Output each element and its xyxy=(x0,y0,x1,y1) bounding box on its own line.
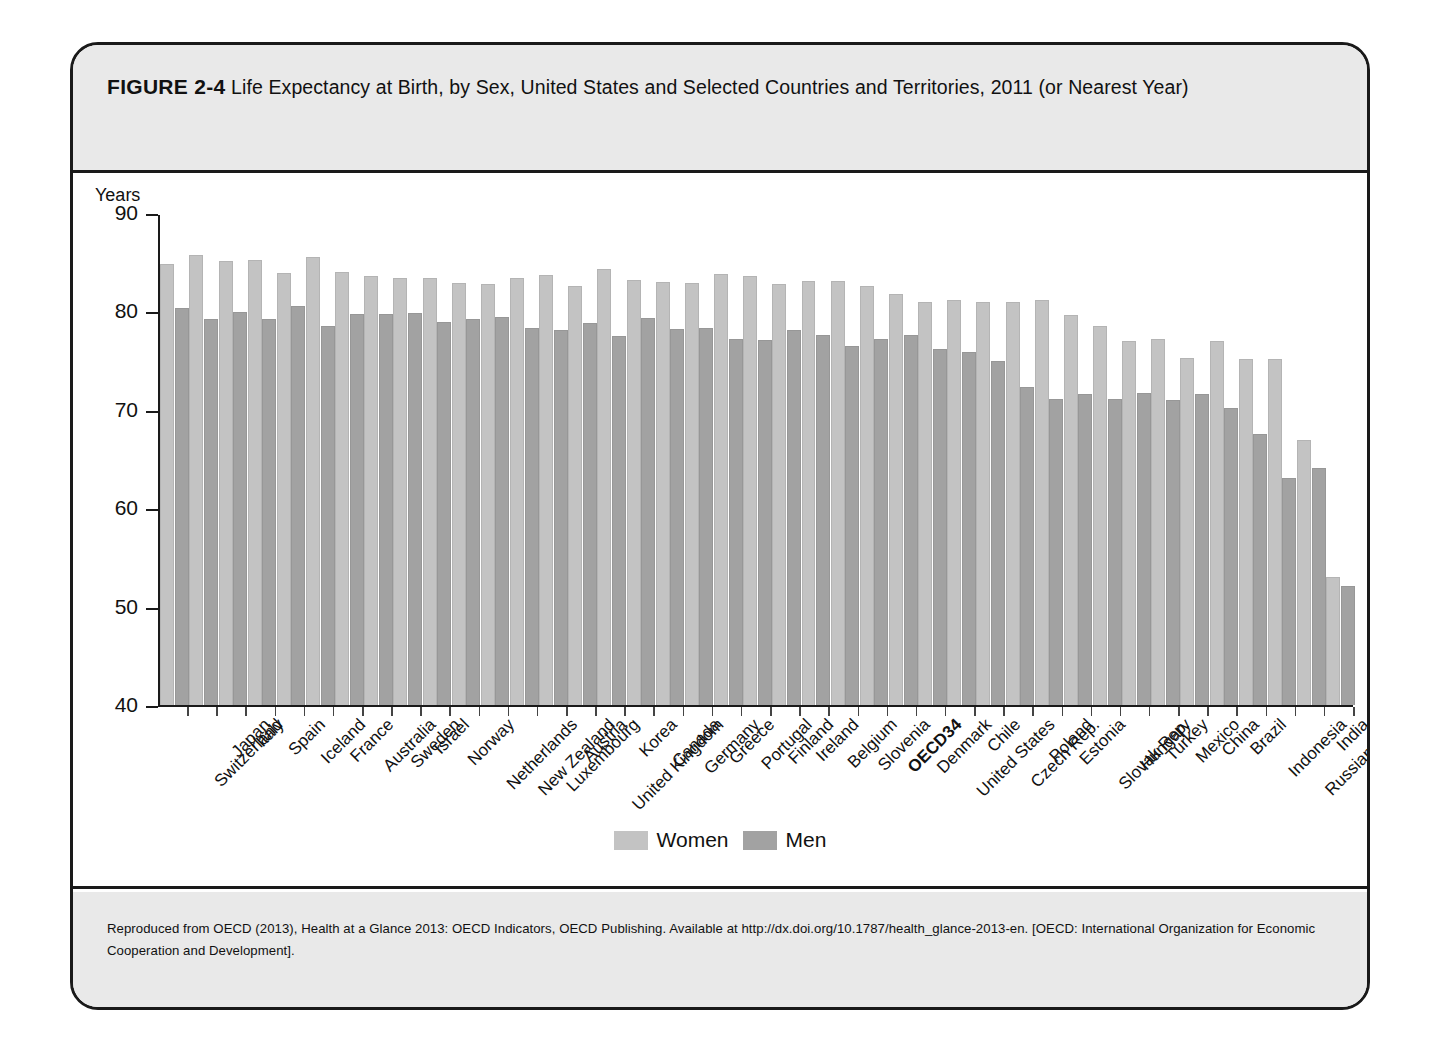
bar-men xyxy=(758,340,772,705)
bar-group xyxy=(597,215,626,705)
y-tick-70: 70 xyxy=(146,411,158,413)
bar-men xyxy=(641,318,655,705)
bar-group xyxy=(772,215,801,705)
y-tick-label-40: 40 xyxy=(92,693,138,717)
bar-women xyxy=(160,264,174,705)
bar-women xyxy=(452,283,466,705)
bar-series-container xyxy=(160,215,1353,705)
bar-women xyxy=(335,272,349,705)
bar-men xyxy=(1166,400,1180,705)
bar-women xyxy=(1239,359,1253,705)
y-tick-40: 40 xyxy=(146,706,158,708)
figure-label: FIGURE 2-4 xyxy=(107,75,226,98)
legend-label-men: Men xyxy=(786,828,827,852)
bar-men xyxy=(1108,399,1122,705)
y-tick-label-80: 80 xyxy=(92,299,138,323)
bar-women xyxy=(627,280,641,705)
bar-women xyxy=(1210,341,1224,705)
bar-group xyxy=(218,215,247,705)
bar-men xyxy=(1253,434,1267,705)
bar-men xyxy=(1078,394,1092,705)
y-tick-label-60: 60 xyxy=(92,496,138,520)
bar-group xyxy=(889,215,918,705)
figure-page: FIGURE 2-4 Life Expectancy at Birth, by … xyxy=(0,0,1431,1060)
bar-women xyxy=(423,278,437,705)
bar-men xyxy=(379,314,393,705)
bar-women xyxy=(364,276,378,705)
x-label-norway: Norway xyxy=(464,715,519,770)
bar-men xyxy=(699,328,713,705)
bar-group xyxy=(510,215,539,705)
bar-group xyxy=(451,215,480,705)
bar-group xyxy=(1268,215,1297,705)
bar-women xyxy=(481,284,495,705)
bar-women xyxy=(1006,302,1020,705)
bar-men xyxy=(1020,387,1034,706)
bar-group xyxy=(1238,215,1267,705)
bar-group xyxy=(1326,215,1355,705)
bar-men xyxy=(1137,393,1151,705)
bar-men xyxy=(233,312,247,705)
bar-group xyxy=(714,215,743,705)
bar-men xyxy=(729,339,743,705)
bar-group xyxy=(539,215,568,705)
bar-women xyxy=(772,284,786,705)
chart-legend: WomenMen xyxy=(73,828,1367,852)
bar-men xyxy=(612,336,626,705)
bar-group xyxy=(1209,215,1238,705)
y-tick-90: 90 xyxy=(146,214,158,216)
bar-men xyxy=(291,306,305,705)
bar-group xyxy=(277,215,306,705)
bar-women xyxy=(1180,358,1194,705)
legend-item-women: Women xyxy=(614,828,729,852)
figure-title-text: Life Expectancy at Birth, by Sex, United… xyxy=(231,76,1189,98)
bar-men xyxy=(525,328,539,705)
bar-group xyxy=(1093,215,1122,705)
bar-group xyxy=(860,215,889,705)
bar-women xyxy=(393,278,407,705)
figure-header: FIGURE 2-4 Life Expectancy at Birth, by … xyxy=(73,45,1367,173)
bar-men xyxy=(554,330,568,705)
bar-women xyxy=(714,274,728,705)
bar-women xyxy=(277,273,291,705)
bar-group xyxy=(743,215,772,705)
bar-men xyxy=(495,317,509,705)
legend-label-women: Women xyxy=(657,828,729,852)
figure-box: FIGURE 2-4 Life Expectancy at Birth, by … xyxy=(70,42,1370,1010)
bar-men xyxy=(904,335,918,705)
bar-women xyxy=(1297,440,1311,705)
bar-women xyxy=(1268,359,1282,705)
y-tick-label-70: 70 xyxy=(92,398,138,422)
bar-women xyxy=(1122,341,1136,705)
bar-women xyxy=(539,275,553,705)
bar-men xyxy=(670,329,684,705)
bar-group xyxy=(976,215,1005,705)
bar-women xyxy=(219,261,233,705)
bar-group xyxy=(481,215,510,705)
bar-men xyxy=(321,326,335,705)
bar-women xyxy=(976,302,990,705)
bar-women xyxy=(918,302,932,705)
bar-women xyxy=(656,282,670,705)
bar-group xyxy=(1151,215,1180,705)
bar-men xyxy=(262,319,276,705)
x-tick xyxy=(1353,707,1355,716)
bar-group xyxy=(830,215,859,705)
bar-women xyxy=(1093,326,1107,705)
bar-men xyxy=(933,349,947,705)
bar-men xyxy=(991,361,1005,705)
bar-group xyxy=(1034,215,1063,705)
bar-men xyxy=(1195,394,1209,705)
bar-women xyxy=(1064,315,1078,705)
bar-women xyxy=(947,300,961,705)
y-tick-50: 50 xyxy=(146,608,158,610)
bar-women xyxy=(889,294,903,705)
chart-area: Years 908070605040 SwitzerlandJapanItaly… xyxy=(73,173,1367,889)
bar-men xyxy=(816,335,830,705)
bar-group xyxy=(1297,215,1326,705)
plot-area: 908070605040 xyxy=(158,215,1353,707)
source-note: Reproduced from OECD (2013), Health at a… xyxy=(107,918,1333,962)
bar-men xyxy=(175,308,189,705)
bar-men xyxy=(437,322,451,705)
bar-men xyxy=(1224,408,1238,705)
